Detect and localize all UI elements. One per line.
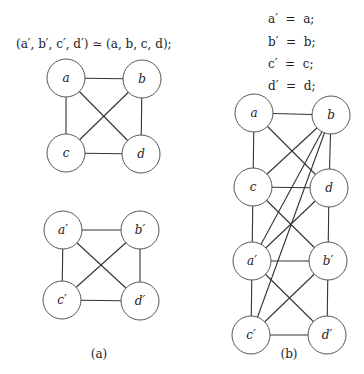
node-label: b′ [135,223,146,237]
node-graph-b-combined-cp: c′ [232,316,270,354]
node-graph-a-primed-bp: b′ [121,211,159,249]
node-label: c [250,180,257,194]
isomorphism-equation: (a′, b′, c′, d′) ≃ (a, b, c, d); [16,37,172,51]
node-graph-b-combined-c: c [234,168,272,206]
node-graph-b-combined-a: a [235,94,273,132]
node-label: d′ [322,328,333,342]
node-graph-a-primed-cp: c′ [43,281,81,319]
caption-a: (a) [91,347,108,361]
node-graph-a-original-d: d [122,135,160,173]
node-graph-b-combined-ap: a′ [233,242,271,280]
equation-line-2: b′ = b; [268,35,315,49]
node-graph-a-original-c: c [47,134,85,172]
node-label: b′ [323,254,334,268]
node-label: c′ [57,293,67,307]
equation-line-1: a′ = a; [268,12,314,26]
node-graph-b-combined-b: b [312,96,350,134]
node-label: b [327,108,335,122]
edges-layer [62,78,331,335]
graph-canvas: abcda′b′c′d′abcda′b′c′d′ (a′, b′, c′, d′… [0,0,364,374]
equation-line-3: c′ = c; [268,57,314,71]
node-graph-b-combined-bp: b′ [309,242,347,280]
node-label: d [325,181,333,195]
node-label: b [138,72,146,86]
node-graph-a-original-b: b [123,60,161,98]
node-graph-b-combined-d: d [310,169,348,207]
equation-line-4: d′ = d; [268,79,315,93]
node-label: a′ [247,254,257,268]
node-graph-a-primed-ap: a′ [44,211,82,249]
nodes-layer: abcda′b′c′d′abcda′b′c′d′ [43,59,350,354]
node-label: a [250,106,257,120]
node-label: a′ [58,223,68,237]
node-label: a [62,71,69,85]
node-label: d [137,147,145,161]
caption-b: (b) [280,347,297,361]
node-graph-a-original-a: a [47,59,85,97]
node-graph-b-combined-dp: d′ [308,316,346,354]
node-label: c [63,146,70,160]
node-label: c′ [246,328,256,342]
node-graph-a-primed-dp: d′ [121,282,159,320]
node-label: d′ [135,294,146,308]
